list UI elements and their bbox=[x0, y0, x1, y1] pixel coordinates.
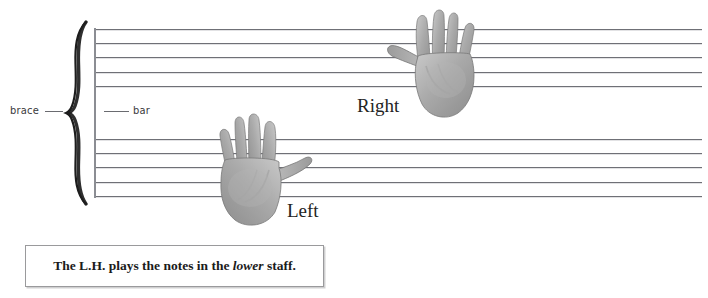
figure-root: brace bar bbox=[0, 0, 708, 298]
staff-line bbox=[96, 72, 702, 73]
staff-line bbox=[96, 182, 702, 183]
lower-staff bbox=[96, 139, 702, 197]
upper-staff bbox=[96, 29, 702, 87]
right-hand-label: Right bbox=[357, 95, 399, 117]
staff-line bbox=[96, 196, 702, 197]
grand-staff-system bbox=[0, 0, 708, 240]
bar-leader-line bbox=[104, 111, 129, 112]
brace-label: brace bbox=[10, 104, 39, 117]
caption-box: The L.H. plays the notes in the lower st… bbox=[25, 245, 324, 287]
brace-leader-line bbox=[45, 111, 63, 112]
staff-line bbox=[96, 139, 702, 140]
staff-line bbox=[96, 43, 702, 44]
caption-prefix: The L.H. plays the notes in the bbox=[53, 258, 233, 273]
staff-line bbox=[96, 29, 702, 30]
brace-icon bbox=[62, 20, 92, 206]
bar-line bbox=[94, 28, 96, 198]
staff-line bbox=[96, 153, 702, 154]
caption-suffix: staff. bbox=[264, 258, 296, 273]
bar-label: bar bbox=[133, 104, 150, 117]
staff-line bbox=[96, 57, 702, 58]
caption-text: The L.H. plays the notes in the lower st… bbox=[26, 258, 323, 274]
staff-line bbox=[96, 167, 702, 168]
left-hand-label: Left bbox=[287, 200, 319, 222]
staff-line bbox=[96, 86, 702, 87]
caption-emphasis: lower bbox=[233, 258, 264, 273]
